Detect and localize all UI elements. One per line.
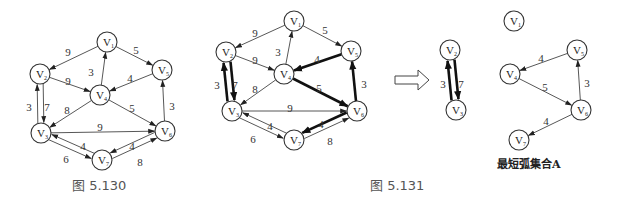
edge-weight-label: 3 — [584, 77, 590, 89]
edge-weight-label: 9 — [252, 27, 258, 39]
edge-weight-label: 3 — [88, 66, 94, 78]
node-v7: V7 — [509, 130, 529, 150]
edge-weight-label: 7 — [44, 101, 50, 113]
node-v3: V3 — [446, 100, 466, 120]
edge-weight-label: 3 — [26, 101, 32, 113]
node-v1: V1 — [284, 11, 304, 31]
node-v2: V2 — [30, 64, 50, 84]
figure-caption-5-131: 图 5.131 — [370, 178, 424, 193]
edge-weight-label: 4 — [318, 118, 324, 130]
edge-weight-label: 3 — [214, 79, 220, 91]
nodes-layer: V1V2V3V4V5V6V7V1V2V3V4V5V6V7V2V3V1V4V5V6… — [30, 11, 591, 170]
edge-weight-label: 4 — [80, 140, 86, 152]
edge-weight-label: 3 — [361, 78, 367, 90]
node-v3: V3 — [31, 123, 51, 143]
edge-v6-to-v7 — [528, 114, 572, 135]
edge-weight-label: 9 — [65, 46, 71, 58]
transform-arrow-icon — [395, 70, 429, 90]
figure-caption-5-130: 图 5.130 — [72, 178, 126, 193]
edges-layer — [37, 25, 580, 158]
node-v1: V1 — [97, 32, 117, 52]
edge-weight-label: 8 — [327, 135, 333, 147]
node-v5: V5 — [567, 40, 587, 60]
node-v3: V3 — [222, 101, 242, 121]
edge-v3-to-v2 — [448, 61, 452, 101]
edge-weight-label: 7 — [458, 78, 464, 90]
edge-weight-label: 8 — [137, 156, 143, 168]
edge-weight-label: 7 — [232, 79, 238, 91]
edge-v6-to-v5 — [163, 80, 165, 121]
edge-weight-label: 4 — [538, 52, 544, 64]
edge-v1-to-v2 — [236, 25, 285, 47]
edge-weight-label: 6 — [250, 133, 256, 145]
node-v5: V5 — [341, 41, 361, 61]
node-v4: V4 — [274, 64, 294, 84]
edge-weight-label: 4 — [129, 140, 135, 152]
edge-v6-to-v5 — [578, 60, 581, 100]
edge-weight-label: 5 — [129, 102, 135, 114]
edge-weight-label: 4 — [127, 72, 133, 84]
shortest-arc-set-caption: 最短弧集合A — [497, 157, 561, 171]
node-v1: V1 — [504, 11, 524, 31]
edge-weight-label: 6 — [63, 153, 69, 165]
node-v6: V6 — [155, 121, 175, 141]
edge-v3-to-v2 — [224, 63, 228, 102]
edge-weight-label: 3 — [275, 46, 281, 58]
node-v6: V6 — [571, 100, 591, 120]
edge-weight-label: 9 — [97, 121, 103, 133]
edge-weight-label: 9 — [65, 75, 71, 87]
edge-weight-label: 5 — [542, 81, 548, 93]
edge-weight-label: 3 — [169, 100, 175, 112]
edge-v6-to-v5 — [352, 61, 356, 101]
edge-v4-to-v3 — [50, 100, 92, 127]
edge-weight-label: 5 — [316, 82, 322, 94]
edge-weight-label: 4 — [267, 120, 273, 132]
edge-weight-label: 9 — [287, 102, 293, 114]
node-v6: V6 — [347, 101, 367, 121]
edge-v3-to-v6 — [51, 131, 155, 133]
edge-weight-label: 5 — [322, 24, 328, 36]
node-v2: V2 — [216, 42, 236, 62]
node-v4: V4 — [500, 64, 520, 84]
edge-weight-label: 9 — [252, 54, 258, 66]
edge-weight-label: 8 — [252, 83, 258, 95]
node-v2: V2 — [440, 40, 460, 60]
edge-weight-label: 5 — [133, 44, 139, 56]
edge-v4-to-v1 — [101, 52, 105, 85]
edge-v4-to-v1 — [286, 31, 292, 64]
edge-v4-to-v3 — [241, 80, 276, 105]
node-v5: V5 — [152, 60, 172, 80]
edge-weight-label: 4 — [543, 115, 549, 127]
node-v7: V7 — [284, 130, 304, 150]
edge-weight-label: 4 — [314, 53, 320, 65]
node-v4: V4 — [90, 85, 110, 105]
diagram-canvas: V1V2V3V4V5V6V7V1V2V3V4V5V6V7V2V3V1V4V5V6… — [0, 0, 617, 201]
edge-weight-label: 8 — [64, 104, 70, 116]
edge-weight-label: 3 — [440, 78, 446, 90]
edge-v3-to-v2 — [37, 85, 38, 124]
edge-v6-to-v7 — [302, 112, 346, 132]
node-v7: V7 — [92, 150, 112, 170]
